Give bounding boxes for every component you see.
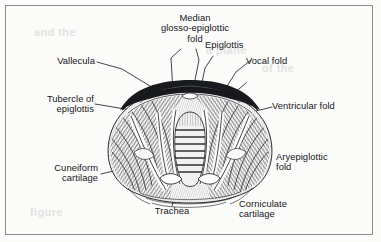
label-corniculate-cartilage: Corniculate cartilage <box>239 199 321 220</box>
label-aryepiglottic-fold: Aryepiglottic fold <box>276 152 360 173</box>
label-vocal-fold: Vocal fold <box>246 56 326 66</box>
larynx-drawing <box>100 76 282 208</box>
label-cuneiform-cartilage: Cuneiform cartilage <box>24 163 98 184</box>
label-trachea: Trachea <box>140 206 204 216</box>
label-tubercle-of-epiglottis: Tubercle of epiglottis <box>18 94 94 115</box>
larynx-figure: and the a plane of the figure <box>0 0 381 242</box>
label-ventricular-fold: Ventricular fold <box>272 101 368 111</box>
label-vallecula: Vallecula <box>27 56 95 66</box>
label-epiglottis: Epiglottis <box>205 40 285 50</box>
